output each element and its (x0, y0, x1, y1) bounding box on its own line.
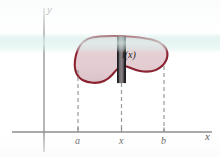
cross-section-length-label: l(x) (122, 50, 136, 60)
tick-label-b: b (161, 136, 166, 146)
y-axis-label: y (47, 4, 52, 15)
x-axis-label: x (205, 131, 210, 142)
tick-label-a: a (75, 136, 80, 146)
tick-label-x: x (119, 136, 123, 146)
tick-marks-group (78, 128, 164, 133)
diagram-svg (0, 0, 220, 157)
figure-canvas: y x a x b l(x) (0, 0, 220, 157)
axes-group (12, 8, 212, 152)
